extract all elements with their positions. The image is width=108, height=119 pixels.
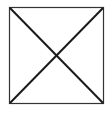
square-with-diagonals-diagram [0,0,108,119]
